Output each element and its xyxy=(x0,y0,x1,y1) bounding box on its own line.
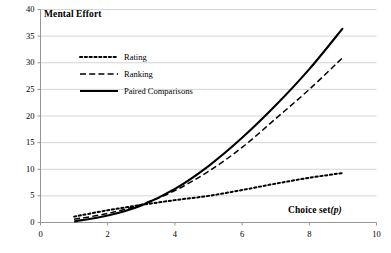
x-tick-label: 10 xyxy=(367,229,387,239)
solid-line-key xyxy=(78,86,120,96)
y-tick-label: 25 xyxy=(13,84,35,94)
chart-plot-area xyxy=(0,0,391,253)
y-tick-label: 20 xyxy=(13,111,35,121)
dotted-line-key xyxy=(78,52,120,62)
legend-label: Rating xyxy=(124,52,147,62)
y-tick-label: 40 xyxy=(13,4,35,14)
x-tick-label: 0 xyxy=(31,229,51,239)
tickmarks-group xyxy=(38,10,377,226)
x-axis-title-text: Choice set xyxy=(288,205,330,215)
y-tick-label: 35 xyxy=(13,31,35,41)
chart-container: Mental Effort Choice set(p) 403530252015… xyxy=(0,0,391,253)
x-tick-label: 4 xyxy=(165,229,185,239)
y-tick-label: 15 xyxy=(13,137,35,147)
x-axis-title-variable: (p) xyxy=(330,205,341,215)
legend-item: Ranking xyxy=(78,65,193,82)
x-tick-label: 2 xyxy=(98,229,118,239)
x-axis-title: Choice set(p) xyxy=(288,205,342,215)
gridlines-group xyxy=(41,10,377,196)
chart-legend: RatingRankingPaired Comparisons xyxy=(78,48,193,99)
y-tick-label: 30 xyxy=(13,57,35,67)
y-tick-label: 10 xyxy=(13,164,35,174)
y-axis-title: Mental Effort xyxy=(44,9,102,19)
legend-label: Ranking xyxy=(124,69,153,79)
legend-item: Rating xyxy=(78,48,193,65)
x-tick-label: 8 xyxy=(299,229,319,239)
y-tick-label: 5 xyxy=(13,190,35,200)
dashed-line-key xyxy=(78,69,120,79)
legend-item: Paired Comparisons xyxy=(78,82,193,99)
x-tick-label: 6 xyxy=(232,229,252,239)
legend-label: Paired Comparisons xyxy=(124,86,193,96)
y-tick-label: 0 xyxy=(13,217,35,227)
